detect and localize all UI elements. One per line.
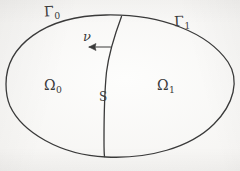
label-omega-1-base: Ω	[157, 77, 169, 93]
label-omega-1-subscript: 1	[169, 84, 175, 95]
label-omega-0: Ω0	[44, 78, 62, 94]
outer-boundary-outline	[6, 15, 234, 157]
label-interface-s: S	[99, 91, 107, 103]
label-normal-vector: ν	[83, 30, 91, 43]
label-gamma-0-base: Γ	[44, 3, 55, 19]
label-omega-0-base: Ω	[44, 77, 56, 93]
label-interface-s-base: S	[99, 90, 107, 104]
label-gamma-1-base: Γ	[174, 13, 184, 29]
label-gamma-0: Γ0	[44, 4, 61, 21]
label-gamma-1-subscript: 1	[184, 19, 190, 30]
label-gamma-1: Γ1	[174, 14, 191, 31]
diagram-ink-layer	[0, 0, 240, 171]
label-omega-0-subscript: 0	[56, 84, 62, 95]
label-normal-vector-base: ν	[83, 29, 91, 44]
label-omega-1: Ω1	[157, 78, 175, 94]
normal-arrow-head	[89, 44, 96, 51]
interface-curve-s	[104, 17, 122, 157]
figure-root: Γ0 Γ1 ν Ω0 Ω1 S	[0, 0, 240, 171]
label-gamma-0-subscript: 0	[54, 9, 60, 20]
